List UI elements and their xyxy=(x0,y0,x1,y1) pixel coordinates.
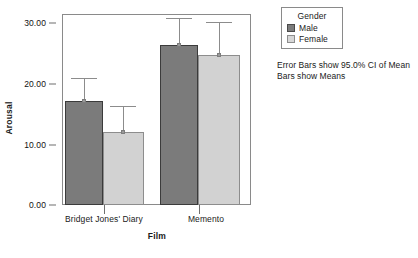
bar-male-bridget-jones-diary xyxy=(65,101,103,205)
y-tick-label: 20.00 xyxy=(24,79,46,89)
error-bar-stem xyxy=(179,18,180,45)
error-bar-cap xyxy=(206,22,232,23)
legend-item-male[interactable]: Male xyxy=(287,23,337,33)
y-axis: 30.00 20.00 10.00 0.00 Arousal xyxy=(0,0,62,258)
error-bar-cap xyxy=(71,78,97,79)
note-error-bars: Error Bars show 95.0% CI of Mean xyxy=(277,60,417,71)
error-bar-mean-point xyxy=(121,130,125,134)
error-bar-mean-point xyxy=(177,43,181,47)
legend-item-label: Female xyxy=(299,34,328,44)
chart-notes: Error Bars show 95.0% CI of Mean Bars sh… xyxy=(277,60,417,82)
y-tick-label: 0.00 xyxy=(29,200,46,210)
male-swatch-icon xyxy=(287,24,295,32)
error-bar-mean-point xyxy=(82,99,86,103)
x-category-label-memento: Memento xyxy=(188,214,224,224)
error-bar-cap xyxy=(166,18,192,19)
female-swatch-icon xyxy=(287,35,295,43)
legend: Gender Male Female xyxy=(281,7,343,49)
y-tick-label: 30.00 xyxy=(24,18,46,28)
bar-male-memento xyxy=(160,45,198,205)
error-bar-mean-point xyxy=(217,53,221,57)
y-tick-label: 10.00 xyxy=(24,140,46,150)
bar-chart: 30.00 20.00 10.00 0.00 Arousal Bridget J… xyxy=(0,0,418,258)
y-tick-mark xyxy=(49,145,56,146)
legend-title: Gender xyxy=(287,11,337,21)
error-bar-cap xyxy=(110,106,136,107)
x-tick-mark xyxy=(199,205,200,214)
error-bar-stem xyxy=(219,22,220,55)
x-axis-title: Film xyxy=(148,231,166,241)
bar-female-bridget-jones-diary xyxy=(103,132,144,205)
y-tick-mark xyxy=(49,84,56,85)
error-bar-stem xyxy=(123,106,124,132)
y-axis-title: Arousal xyxy=(4,101,14,134)
note-bars: Bars show Means xyxy=(277,71,417,82)
x-category-label-bridget-jones-diary: Bridget Jones' Diary xyxy=(65,214,143,224)
y-tick-mark xyxy=(49,205,56,206)
legend-item-label: Male xyxy=(299,23,318,33)
bar-female-memento xyxy=(198,55,240,205)
y-tick-mark xyxy=(49,23,56,24)
legend-item-female[interactable]: Female xyxy=(287,34,337,44)
x-tick-mark xyxy=(104,205,105,214)
